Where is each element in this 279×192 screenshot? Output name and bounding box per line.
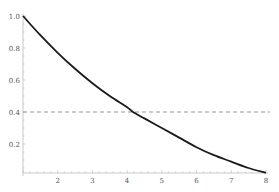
y-tick-label: 1.0: [9, 13, 20, 21]
x-tick-label: 6: [194, 177, 199, 185]
x-tick-label: 4: [125, 177, 130, 185]
x-tick-label: 7: [229, 177, 233, 185]
line-chart: 23456780.20.40.60.81.0: [0, 0, 279, 192]
plot-area: [23, 16, 266, 173]
axes: 23456780.20.40.60.81.0: [9, 13, 268, 186]
x-tick-label: 2: [55, 177, 59, 185]
y-tick-label: 0.2: [9, 141, 20, 149]
y-tick-label: 0.8: [9, 45, 20, 53]
x-tick-label: 5: [160, 177, 164, 185]
x-tick-label: 8: [264, 177, 268, 185]
y-tick-label: 0.6: [9, 77, 21, 85]
x-tick-label: 3: [90, 177, 94, 185]
curve-line: [23, 16, 266, 173]
y-tick-label: 0.4: [9, 109, 21, 117]
